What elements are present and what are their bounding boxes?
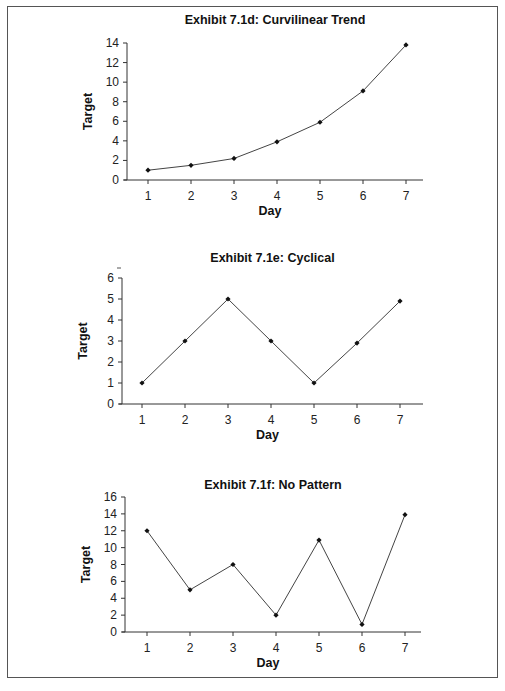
x-tick-label: 4: [273, 641, 280, 655]
x-axis-label: Day: [259, 204, 282, 218]
x-tick-label: 4: [274, 189, 281, 203]
series-line: [148, 45, 406, 170]
y-tick-label: 2: [112, 153, 119, 167]
y-tick-label: 6: [112, 114, 119, 128]
y-axis-label: Target: [81, 92, 95, 130]
data-point-marker: [145, 168, 150, 173]
chart-title: Exhibit 7.1e: Cyclical: [210, 251, 334, 265]
x-tick-label: 1: [145, 189, 152, 203]
y-tick-label: 12: [104, 524, 118, 538]
x-tick-label: 3: [231, 189, 238, 203]
x-tick-label: 6: [360, 189, 367, 203]
x-tick-label: 2: [182, 413, 189, 427]
y-tick-label: 6: [110, 574, 117, 588]
x-tick-label: 5: [317, 189, 324, 203]
data-point-marker: [231, 156, 236, 161]
y-tick-label: 2: [110, 608, 117, 622]
y-axis-label: Target: [79, 545, 93, 583]
y-tick-label: 1: [107, 376, 114, 390]
y-tick-label: 6: [107, 271, 114, 285]
chart-title: Exhibit 7.1f: No Pattern: [204, 478, 342, 492]
y-tick-label: 8: [112, 95, 119, 109]
data-point-marker: [274, 139, 279, 144]
y-tick-label: 0: [110, 625, 117, 639]
data-point-marker: [316, 537, 321, 542]
charts-canvas: Exhibit 7.1d: Curvilinear Trend024681012…: [0, 0, 505, 691]
data-point-marker: [402, 512, 407, 517]
y-tick-label: 4: [107, 313, 114, 327]
x-tick-label: 1: [144, 641, 151, 655]
chart-1: Exhibit 7.1d: Curvilinear Trend024681012…: [81, 13, 423, 218]
chart-2: Exhibit 7.1e: Cyclical01234561234567DayT…: [76, 251, 423, 442]
y-tick-label: 10: [106, 75, 120, 89]
y-tick-label: 14: [104, 507, 118, 521]
y-tick-label: 3: [107, 334, 114, 348]
y-tick-label: 5: [107, 292, 114, 306]
x-tick-label: 7: [403, 189, 410, 203]
x-tick-label: 7: [402, 641, 409, 655]
y-tick-label: 12: [106, 56, 120, 70]
x-tick-label: 5: [316, 641, 323, 655]
y-tick-label: 4: [112, 134, 119, 148]
x-tick-label: 7: [397, 413, 404, 427]
x-tick-label: 4: [268, 413, 275, 427]
data-point-marker: [188, 163, 193, 168]
y-tick-label: 4: [110, 591, 117, 605]
x-tick-label: 5: [311, 413, 318, 427]
y-tick-label: 0: [112, 173, 119, 187]
chart-title: Exhibit 7.1d: Curvilinear Trend: [185, 13, 366, 27]
x-tick-label: 3: [225, 413, 232, 427]
y-tick-label: 0: [107, 397, 114, 411]
x-tick-label: 6: [354, 413, 361, 427]
y-tick-label: 16: [104, 490, 118, 504]
y-tick-label: 10: [104, 541, 118, 555]
x-tick-label: 3: [230, 641, 237, 655]
x-tick-label: 1: [139, 413, 146, 427]
x-tick-label: 2: [188, 189, 195, 203]
y-tick-label: 8: [110, 558, 117, 572]
y-tick-label: 2: [107, 355, 114, 369]
x-axis-label: Day: [256, 428, 279, 442]
x-axis-label: Day: [257, 656, 280, 670]
x-tick-label: 6: [359, 641, 366, 655]
y-axis-label: Target: [76, 322, 90, 360]
data-point-marker: [359, 622, 364, 627]
y-tick-label: 14: [106, 36, 120, 50]
x-tick-label: 2: [187, 641, 194, 655]
chart-3: Exhibit 7.1f: No Pattern0246810121416123…: [79, 478, 421, 670]
series-line: [147, 515, 405, 625]
